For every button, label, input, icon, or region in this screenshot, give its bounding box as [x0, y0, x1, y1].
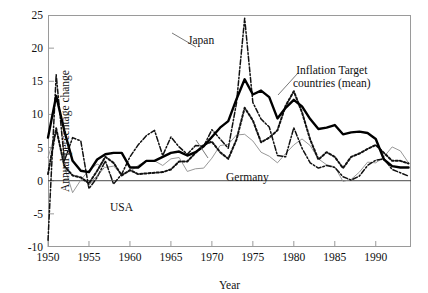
annotation-germany: Germany: [226, 172, 269, 184]
annotation-japan: Japan: [188, 35, 214, 47]
x-axis-title: Year: [48, 279, 411, 291]
annotation-usa: USA: [110, 202, 133, 214]
y-tick-label: 25: [32, 9, 44, 21]
series-line: [48, 91, 409, 183]
x-tick-label: 1955: [77, 251, 100, 263]
x-tick-label: 1990: [364, 251, 387, 263]
x-tick-label: 1970: [200, 251, 223, 263]
y-tick-label: -5: [33, 208, 43, 220]
series-line: [48, 18, 409, 240]
x-tick-label: 1980: [282, 251, 305, 263]
x-tick-label: 1960: [118, 251, 141, 263]
y-tick-label: 0: [37, 175, 43, 187]
y-tick-label: 15: [32, 75, 44, 87]
x-tick-label: 1950: [37, 251, 60, 263]
annotation-inflation-target-line1: Inflation Target: [293, 64, 371, 77]
annotation-inflation-target-line2: countries (mean): [293, 77, 371, 90]
annotation-inflation-target: Inflation Target countries (mean): [293, 64, 371, 89]
y-tick-label: 5: [37, 142, 43, 154]
y-axis-title: Annual percentage change: [59, 70, 71, 192]
data-lines: [48, 15, 411, 247]
y-tick-label: 20: [32, 42, 44, 54]
x-tick-label: 1965: [159, 251, 182, 263]
x-tick-label: 1985: [323, 251, 346, 263]
plot-area: -10-50510152025 195019551960196519701975…: [48, 15, 411, 247]
figure: -10-50510152025 195019551960196519701975…: [0, 0, 428, 293]
x-tick-label: 1975: [241, 251, 264, 263]
y-tick-label: 10: [32, 108, 44, 120]
